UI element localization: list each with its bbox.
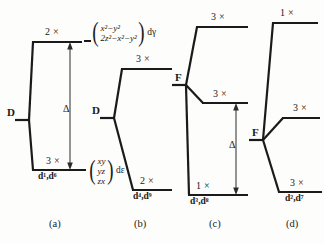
- panel-a-orbital-row-2: 2z²−x²−y²: [101, 33, 137, 43]
- panel-d-configuration: d²,d⁷: [285, 194, 304, 204]
- panel-d-middle-correlation-line: [263, 118, 283, 140]
- panel-c-lower-multiplicity: 1 ×: [196, 181, 210, 191]
- energy-level-diagram-figure: D 2 × 3 × d¹,d⁶ Δ ( x²−y² 2z²−x²−y² ) dγ…: [0, 0, 324, 244]
- panel-a-caption: (a): [49, 219, 61, 230]
- panel-c-lower-correlation-line: [186, 85, 189, 195]
- panel-a-lines: [15, 42, 86, 170]
- panel-d-lower-correlation-line: [263, 140, 279, 192]
- panel-c-middle-multiplicity: 3 ×: [213, 89, 227, 99]
- panel-c-delta-arrowhead-down: [233, 188, 239, 196]
- panel-a-upper-multiplicity: 2 ×: [45, 27, 59, 37]
- panel-a-delta-arrowhead-up: [67, 42, 73, 50]
- panel-a-orbital-row-2: yz: [98, 166, 106, 176]
- panel-a-delta-label: Δ: [63, 104, 69, 114]
- panel-c-delta-arrowhead-up: [233, 103, 239, 111]
- panel-a-upper-orbital-rows: x²−y² 2z²−x²−y²: [100, 23, 137, 43]
- panel-d-caption: (d): [286, 219, 298, 230]
- panel-a-delta-arrowhead-down: [67, 163, 73, 171]
- panel-a-upper-leader-dash: [84, 40, 91, 42]
- panel-a-upper-orbital-group: ( x²−y² 2z²−x²−y² ) dγ: [91, 22, 156, 44]
- panel-c-upper-multiplicity: 3 ×: [211, 12, 225, 22]
- panel-c-caption: (c): [209, 219, 221, 230]
- panel-c-delta-label: Δ: [229, 140, 235, 150]
- panel-d-lower-multiplicity: 3 ×: [290, 178, 304, 188]
- panel-a-orbital-row-1: x²−y²: [101, 23, 137, 33]
- panel-c-term-label: F: [175, 72, 182, 83]
- panel-c-upper-correlation-line: [186, 27, 197, 85]
- panel-d-lines: [249, 23, 322, 192]
- panel-a-upper-orbital-suffix: dγ: [146, 28, 156, 38]
- panel-d-term-label: F: [252, 127, 259, 138]
- panel-a-lower-multiplicity: 3 ×: [46, 156, 60, 166]
- panel-b-upper-correlation-line: [114, 69, 122, 118]
- panel-d-upper-multiplicity: 1 ×: [280, 8, 294, 18]
- panel-a-lower-orbital-suffix: dε: [115, 166, 125, 176]
- left-paren-icon: (: [92, 22, 98, 44]
- panel-a-configuration: d¹,d⁶: [38, 172, 57, 182]
- left-paren-icon: (: [89, 160, 95, 182]
- panel-d-middle-multiplicity: 3 ×: [293, 103, 307, 113]
- panel-d-upper-correlation-line: [263, 23, 273, 140]
- panel-b-term-label: D: [92, 105, 100, 116]
- panel-b-caption: (b): [134, 219, 146, 230]
- panel-a-lower-correlation-line: [29, 120, 33, 170]
- panel-c-configuration: d³,d⁸: [190, 197, 209, 207]
- panel-a-lower-orbital-rows: xy yz zx: [97, 156, 106, 186]
- right-paren-icon: ): [139, 22, 145, 44]
- panel-a-lower-orbital-group: ( xy yz zx ) dε: [88, 156, 125, 186]
- panel-a-orbital-row-3: zx: [98, 176, 106, 186]
- right-paren-icon: ): [107, 160, 113, 182]
- panel-a-orbital-row-1: xy: [98, 156, 106, 166]
- panel-b-upper-multiplicity: 3 ×: [136, 54, 150, 64]
- panel-c-lines: [172, 27, 248, 195]
- panel-a-upper-correlation-line: [29, 42, 33, 120]
- panel-c-middle-correlation-line: [186, 85, 203, 103]
- panel-a-term-label: D: [7, 107, 15, 118]
- panel-b-lower-multiplicity: 2 ×: [140, 176, 154, 186]
- panel-b-configuration: d⁴,d⁹: [133, 192, 152, 202]
